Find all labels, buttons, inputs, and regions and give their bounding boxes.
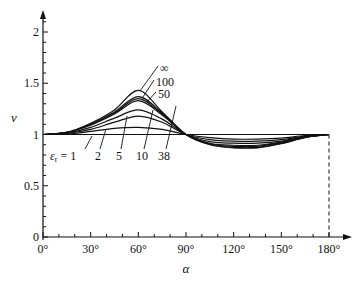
curve-label: 5 (116, 149, 122, 163)
y-axis-label: v (11, 110, 17, 125)
chart: 0°30°60°90°120°150°180°00.511.52αvεr = 1… (0, 0, 361, 284)
x-tick-label: 150° (270, 242, 293, 256)
x-axis-label: α (183, 261, 191, 276)
curve-label: εr = 1 (50, 149, 76, 164)
curve-label: 38 (158, 149, 170, 163)
curve-label: ∞ (160, 61, 169, 75)
curve-label: 2 (95, 149, 101, 163)
y-tick-label: 1.5 (24, 76, 39, 90)
y-tick-label: 2 (33, 25, 39, 39)
y-tick-label: 1 (33, 128, 39, 142)
curve-label: 10 (136, 149, 148, 163)
curve-label: 50 (158, 87, 170, 101)
x-tick-label: 0° (38, 242, 49, 256)
x-tick-label: 60° (130, 242, 147, 256)
labels: 0°30°60°90°120°150°180°00.511.52αvεr = 1… (11, 25, 340, 276)
x-tick-label: 120° (222, 242, 245, 256)
x-tick-label: 30° (82, 242, 99, 256)
x-tick-label: 180° (318, 242, 341, 256)
curves (43, 90, 329, 148)
x-axis-arrow-icon (343, 234, 352, 240)
y-axis-arrow-icon (40, 10, 46, 19)
x-tick-label: 90° (178, 242, 195, 256)
y-tick-label: 0.5 (24, 179, 39, 193)
y-tick-label: 0 (33, 230, 39, 244)
